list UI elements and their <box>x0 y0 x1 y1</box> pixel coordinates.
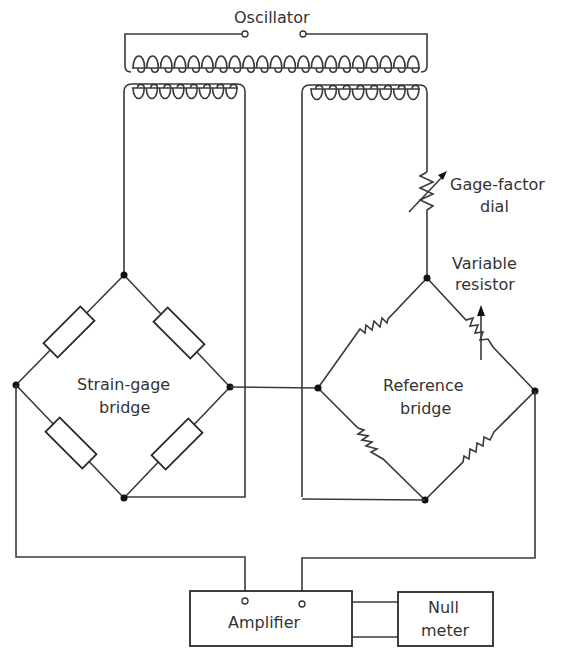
null-meter: Null meter <box>398 592 493 646</box>
reference-bridge: Variable resistor Reference bridge <box>315 254 539 504</box>
oscillator-label: Oscillator <box>234 8 310 27</box>
strain-gage-bottom-right <box>152 419 203 470</box>
arrow-icon <box>477 305 485 316</box>
reference-bridge-label-line1: Reference <box>383 376 464 395</box>
node <box>424 275 431 282</box>
variable-resistor-label-line2: resistor <box>455 275 515 294</box>
amplifier-input-right-wire <box>302 391 535 603</box>
transformer-primary-coil <box>132 56 420 72</box>
strain-gage-bridge: Strain-gage bridge <box>13 272 234 502</box>
strain-gage-bridge-label-line1: Strain-gage <box>77 375 170 394</box>
transformer-secondary-left-coil <box>132 84 238 98</box>
gage-factor-dial-label-line1: Gage-factor <box>450 175 545 194</box>
bridge-link-wire <box>230 387 318 388</box>
strain-gage-top-left <box>44 307 95 358</box>
variable-resistor-label-line1: Variable <box>452 254 517 273</box>
gage-factor-dial-label-line2: dial <box>480 197 509 216</box>
strain-gage-bottom-left <box>46 418 97 469</box>
amplifier-input-left-wire <box>16 385 245 600</box>
oscillator-terminal-right <box>300 31 306 37</box>
arrow-icon <box>438 171 447 180</box>
amplifier-terminal-right <box>299 601 305 607</box>
ref-bottom-wire <box>302 499 425 500</box>
reference-bridge-label-line2: bridge <box>400 399 451 418</box>
amplifier-label: Amplifier <box>228 613 301 632</box>
node <box>121 495 128 502</box>
amplifier-terminal-left <box>242 598 248 604</box>
oscillator-terminal-left <box>242 31 248 37</box>
circuit-diagram: Oscillator Gage-factor dial Strain-gage … <box>0 0 562 653</box>
strain-gage-top-right <box>154 308 205 359</box>
null-meter-label-line2: meter <box>421 621 470 640</box>
strain-gage-bridge-label-line2: bridge <box>99 398 150 417</box>
node <box>315 385 322 392</box>
null-meter-label-line1: Null <box>428 598 459 617</box>
amplifier: Amplifier <box>190 591 352 646</box>
transformer-secondary-right-coil <box>310 85 420 99</box>
oscillator: Oscillator <box>125 8 427 72</box>
node <box>121 272 128 279</box>
